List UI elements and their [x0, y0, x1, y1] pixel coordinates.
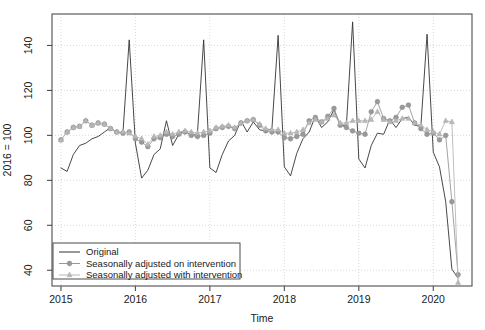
- chart-legend: OriginalSeasonally adjusted on intervent…: [53, 243, 242, 280]
- legend-item-2[interactable]: Seasonally adjusted on intervention: [59, 258, 236, 269]
- data-point-circle: [344, 125, 349, 130]
- data-point-circle: [288, 136, 293, 141]
- y-axis-tick-label: 60: [22, 219, 34, 231]
- x-axis-tick-label: 2015: [49, 293, 73, 305]
- data-point-circle: [437, 137, 442, 142]
- time-series-chart: 406080100120140201520162017201820192020T…: [0, 0, 485, 330]
- data-point-circle: [294, 134, 299, 139]
- data-point-circle: [356, 131, 361, 136]
- data-point-circle: [363, 132, 368, 137]
- y-axis-tick-label: 120: [22, 82, 34, 100]
- data-point-circle: [332, 106, 337, 111]
- y-axis-tick-label: 100: [22, 126, 34, 144]
- x-axis-tick-label: 2020: [422, 293, 446, 305]
- legend-item-label: Original: [86, 246, 119, 257]
- legend-item-3[interactable]: Seasonally adjusted with intervention: [59, 269, 242, 280]
- y-axis-tick-label: 40: [22, 264, 34, 276]
- legend-item-label: Seasonally adjusted with intervention: [86, 269, 242, 280]
- data-point-circle: [406, 103, 411, 108]
- data-point-circle: [449, 199, 454, 204]
- legend-item-label: Seasonally adjusted on intervention: [86, 258, 236, 269]
- y-axis-tick-label: 140: [22, 37, 34, 55]
- x-axis-title: Time: [251, 312, 274, 324]
- x-axis-tick-label: 2019: [347, 293, 371, 305]
- data-point-circle: [443, 133, 448, 138]
- x-axis-tick-label: 2017: [198, 293, 222, 305]
- data-point-circle: [400, 105, 405, 110]
- data-point-circle: [350, 128, 355, 133]
- data-point-circle: [369, 109, 374, 114]
- data-point-circle: [425, 132, 430, 137]
- x-axis-tick-label: 2016: [124, 293, 148, 305]
- y-axis-title: 2016 = 100: [1, 123, 13, 176]
- x-axis-tick-label: 2018: [273, 293, 297, 305]
- legend-key-circle-icon: [67, 261, 72, 266]
- chart-background: [0, 0, 485, 330]
- data-point-circle: [282, 135, 287, 140]
- data-point-circle: [301, 132, 306, 137]
- chart-page: 406080100120140201520162017201820192020T…: [0, 0, 485, 330]
- y-axis-tick-label: 80: [22, 174, 34, 186]
- data-point-circle: [375, 99, 380, 104]
